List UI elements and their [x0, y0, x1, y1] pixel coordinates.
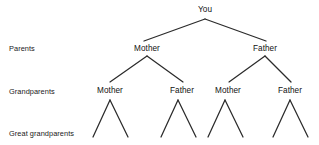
node-you: You: [198, 5, 212, 15]
connector-line: [110, 56, 147, 82]
connector-line: [161, 100, 178, 137]
connector-line: [273, 100, 290, 137]
node-grandparent-maternal-father: Father: [170, 86, 194, 96]
row-label-grandparents: Grandparents: [9, 87, 55, 96]
connector-line: [290, 100, 308, 137]
connector-line: [144, 19, 205, 41]
node-grandparent-maternal-mother: Mother: [97, 86, 123, 96]
connector-line: [225, 100, 243, 137]
node-parent-father: Father: [253, 44, 277, 54]
connector-line: [93, 100, 110, 137]
connector-line: [205, 19, 266, 41]
node-grandparent-paternal-father: Father: [278, 86, 302, 96]
tree-connector-lines: [0, 0, 319, 145]
connector-line: [110, 100, 128, 137]
node-parent-mother: Mother: [134, 44, 160, 54]
connector-line: [178, 100, 196, 137]
row-label-great-grandparents: Great grandparents: [9, 129, 74, 138]
family-tree-diagram: Parents Grandparents Great grandparents …: [0, 0, 319, 145]
connector-line: [208, 100, 225, 137]
node-grandparent-paternal-mother: Mother: [215, 86, 241, 96]
connector-line: [229, 56, 265, 82]
row-label-parents: Parents: [9, 44, 35, 53]
connector-line: [147, 56, 183, 82]
connector-line: [265, 56, 291, 82]
